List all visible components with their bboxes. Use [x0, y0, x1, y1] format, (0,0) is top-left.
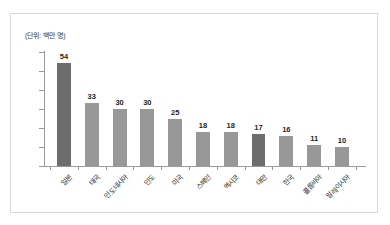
x-axis-line: [44, 166, 366, 167]
bar-group: 25: [168, 52, 182, 166]
bar-value-label: 25: [171, 108, 179, 117]
bar-value-label: 18: [199, 121, 207, 130]
bar: [85, 103, 99, 166]
bar: [113, 109, 127, 166]
plot-area: 5433303025181817161110: [44, 52, 365, 166]
bar: [252, 134, 266, 166]
bar-group: 10: [335, 52, 349, 166]
bar: [168, 119, 182, 167]
bar: [224, 132, 238, 166]
bar-value-label: 30: [143, 98, 151, 107]
bar-group: 30: [140, 52, 154, 166]
bar-group: 16: [279, 52, 293, 166]
bar-value-label: 30: [115, 98, 123, 107]
bar-group: 33: [85, 52, 99, 166]
bar-value-label: 17: [254, 123, 262, 132]
chart-figure: (단위: 백만 명) 0102030405060 543330302518181…: [0, 0, 390, 225]
bar: [57, 63, 71, 166]
unit-label: (단위: 백만 명): [25, 30, 66, 40]
bar-value-label: 18: [227, 121, 235, 130]
bar-group: 30: [113, 52, 127, 166]
bar-value-label: 11: [310, 134, 318, 143]
bar-group: 17: [252, 52, 266, 166]
bar-value-label: 54: [60, 52, 68, 61]
bar-value-label: 10: [338, 136, 346, 145]
bar-group: 11: [307, 52, 321, 166]
bar-value-label: 33: [88, 92, 96, 101]
bar: [307, 145, 321, 166]
bar: [279, 136, 293, 166]
bar-value-label: 16: [282, 125, 290, 134]
bar-group: 18: [224, 52, 238, 166]
bar: [196, 132, 210, 166]
bar-group: 54: [57, 52, 71, 166]
x-tick-mark: [50, 166, 51, 170]
bar-group: 18: [196, 52, 210, 166]
